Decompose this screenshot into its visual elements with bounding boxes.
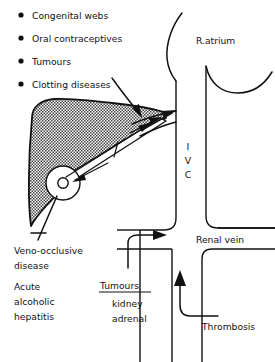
- tumour-invasion-arrow-head: [153, 230, 167, 240]
- ivc-lower-segment: [117, 230, 172, 362]
- renal-tumour-heading: Tumours: [99, 280, 139, 291]
- renal-tumour-item: adrenal: [112, 313, 147, 324]
- ivc-letter: C: [185, 169, 192, 180]
- renal-vein-label: Renal vein: [196, 234, 244, 245]
- occluded-vein-lumen: [58, 178, 68, 188]
- thrombosis-arrow-line: [180, 282, 218, 316]
- liver-organ: [29, 99, 166, 226]
- bullet-dot-icon: [18, 12, 23, 17]
- bullet-dot-icon: [18, 58, 23, 63]
- veno-occlusive-label-line2: disease: [14, 260, 49, 271]
- cause-item-label: Tumours: [31, 56, 71, 67]
- thrombosis-label: Thrombosis: [201, 321, 255, 332]
- veno-occlusive-label-line1: Veno-occlusive: [14, 245, 83, 256]
- renal-tumour-item: kidney: [112, 298, 143, 309]
- acute-hepatitis-label-line2: alcoholic: [14, 296, 54, 307]
- renal-tumour-text-block: Tumours kidney adrenal: [99, 280, 151, 324]
- ivc-letter: I: [187, 141, 190, 152]
- atrium-floor-wall: [206, 66, 272, 93]
- right-atrium-structure: R.atrium: [167, 13, 272, 93]
- right-atrium-label: R.atrium: [196, 35, 235, 46]
- acute-hepatitis-label-line3: hepatitis: [14, 311, 54, 322]
- causes-bullet-list: Congenital webs Oral contraceptives Tumo…: [18, 10, 122, 90]
- thrombosis-arrow-head: [174, 270, 186, 286]
- acute-hepatitis-label-line1: Acute: [14, 281, 41, 292]
- bullet-dot-icon: [18, 35, 23, 40]
- thrombosis-arrow: Thrombosis: [174, 270, 255, 332]
- renal-vein-structure: Renal vein: [196, 228, 275, 362]
- inferior-vena-cava: I V C: [140, 66, 275, 230]
- cause-item-label: Oral contraceptives: [32, 33, 122, 44]
- bullet-dot-icon: [18, 81, 23, 86]
- atrium-left-wall: [167, 13, 182, 81]
- cause-item-label: Clotting diseases: [32, 79, 111, 90]
- ivc-left-wall-upper: [140, 81, 176, 230]
- ivc-letter: V: [185, 155, 192, 166]
- liver-disease-labels: Veno-occlusive disease Acute alcoholic h…: [14, 245, 83, 322]
- tumour-invasion-arrow-line: [128, 235, 158, 268]
- ivc-right-wall-upper: [206, 66, 275, 228]
- cause-item-label: Congenital webs: [32, 10, 108, 21]
- renal-vein-lower-wall: [202, 249, 275, 362]
- diagram-canvas: Congenital webs Oral contraceptives Tumo…: [0, 0, 275, 362]
- budd-chiari-diagram: Congenital webs Oral contraceptives Tumo…: [0, 0, 275, 362]
